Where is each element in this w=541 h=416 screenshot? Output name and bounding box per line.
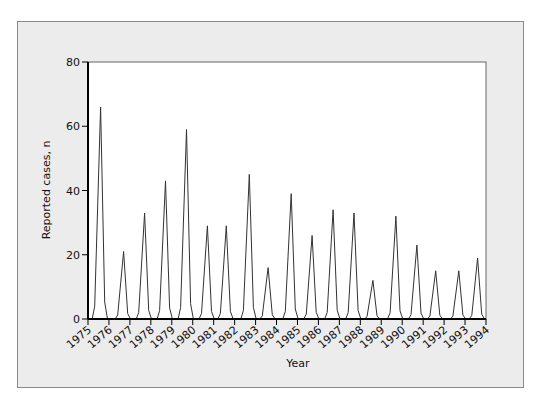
x-axis: 1975197619771978197919801981198219831984…	[64, 319, 492, 351]
y-axis-title: Reported cases, n	[40, 141, 53, 240]
y-tick-label: 40	[66, 185, 80, 198]
y-tick-label: 0	[73, 313, 80, 326]
y-tick-label: 80	[66, 56, 80, 69]
chart: 020406080 197519761977197819791980198119…	[0, 0, 541, 416]
y-tick-label: 60	[66, 120, 80, 133]
y-tick-label: 20	[66, 249, 80, 262]
x-tick-label: 1994	[462, 323, 492, 351]
x-axis-title: Year	[285, 357, 310, 370]
y-axis: 020406080	[66, 56, 88, 326]
